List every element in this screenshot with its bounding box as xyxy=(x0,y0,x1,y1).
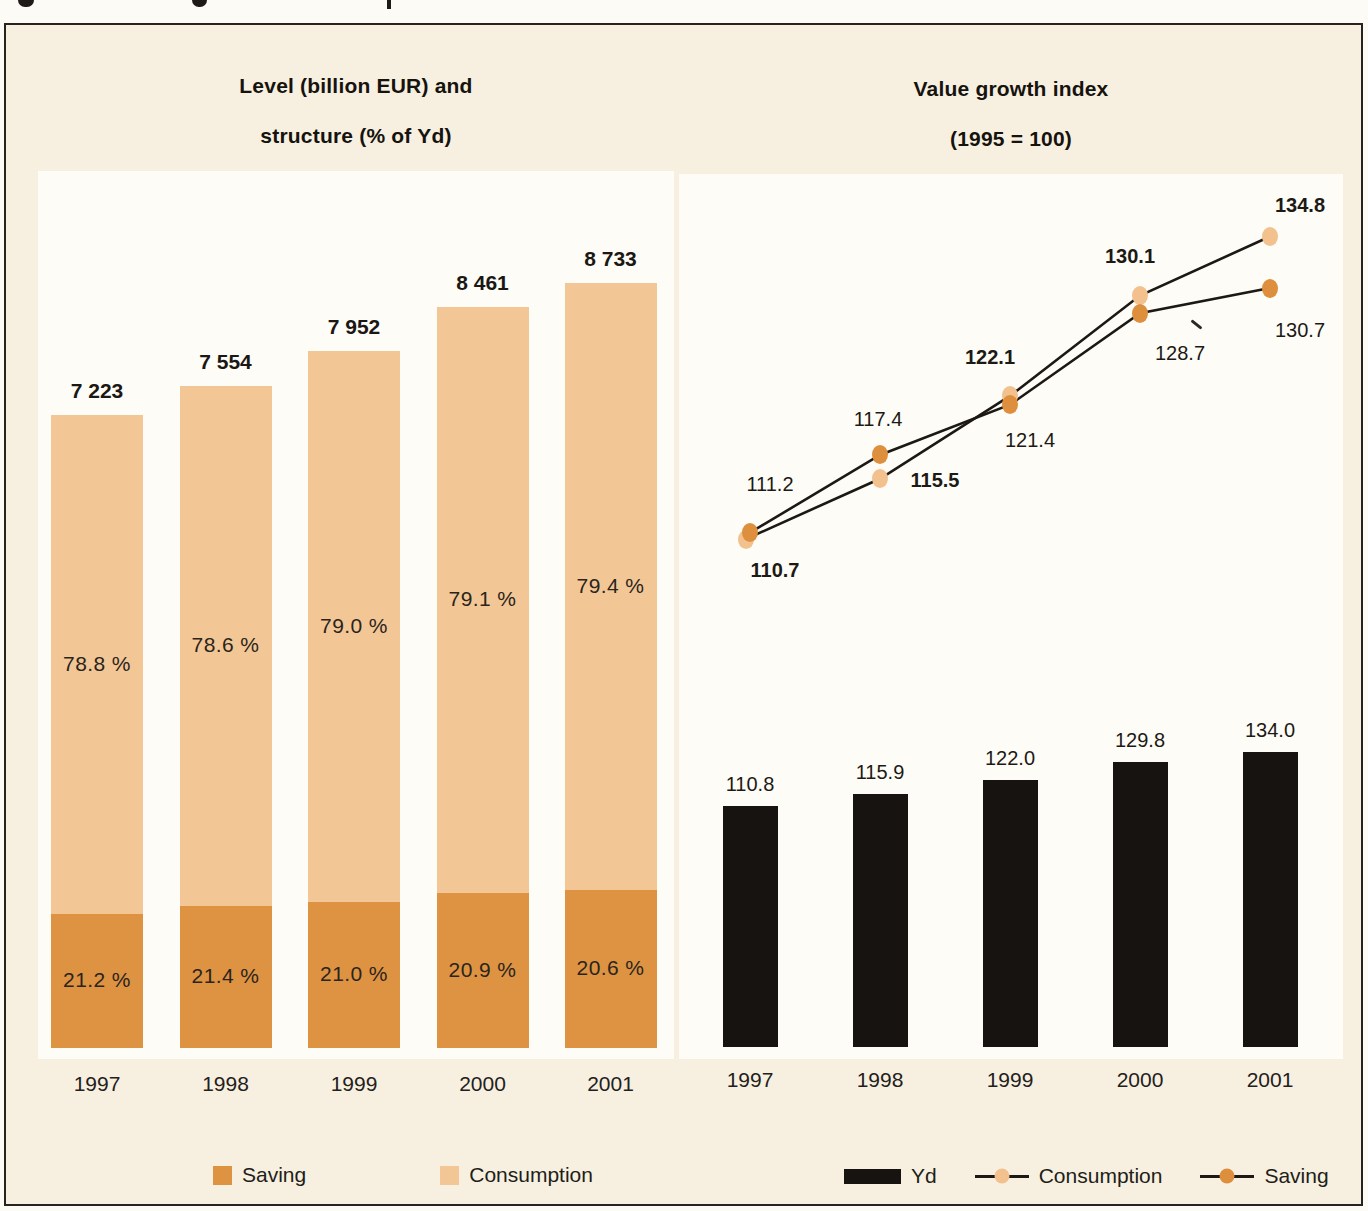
consumption-swatch-icon xyxy=(440,1166,459,1185)
cropped-text-artifact xyxy=(18,0,34,7)
saving-line-marker-icon xyxy=(1200,1175,1254,1178)
left-chart-title: Level (billion EUR) and structure (% of … xyxy=(38,75,674,146)
cropped-text-artifact xyxy=(192,0,207,7)
cropped-text-artifact xyxy=(387,0,391,9)
legend-label-consumption: Consumption xyxy=(469,1163,593,1187)
legend-item-consumption-line: Consumption xyxy=(975,1164,1163,1188)
left-chart-title-line2: structure (% of Yd) xyxy=(38,125,674,146)
legend-item-yd: Yd xyxy=(844,1164,937,1188)
saving-swatch-icon xyxy=(213,1166,232,1185)
right-chart-title-line1: Value growth index xyxy=(679,78,1343,99)
page: Level (billion EUR) and structure (% of … xyxy=(0,0,1368,1211)
right-plot-area xyxy=(679,174,1343,1059)
left-legend: Saving Consumption xyxy=(213,1163,593,1187)
legend-item-consumption: Consumption xyxy=(440,1163,593,1187)
legend-item-saving: Saving xyxy=(213,1163,306,1187)
left-chart-title-line1: Level (billion EUR) and xyxy=(38,75,674,96)
right-chart-title: Value growth index (1995 = 100) xyxy=(679,78,1343,149)
figure-frame: Level (billion EUR) and structure (% of … xyxy=(4,23,1363,1206)
right-legend: Yd Consumption Saving xyxy=(844,1164,1329,1188)
legend-item-saving-line: Saving xyxy=(1200,1164,1328,1188)
consumption-line-marker-icon xyxy=(975,1175,1029,1178)
legend-label-saving: Saving xyxy=(242,1163,306,1187)
legend-label-saving-line: Saving xyxy=(1264,1164,1328,1188)
left-plot-area xyxy=(38,171,674,1059)
yd-bar-swatch-icon xyxy=(844,1169,901,1184)
right-chart-title-line2: (1995 = 100) xyxy=(679,128,1343,149)
legend-label-yd: Yd xyxy=(911,1164,937,1188)
legend-label-consumption-line: Consumption xyxy=(1039,1164,1163,1188)
